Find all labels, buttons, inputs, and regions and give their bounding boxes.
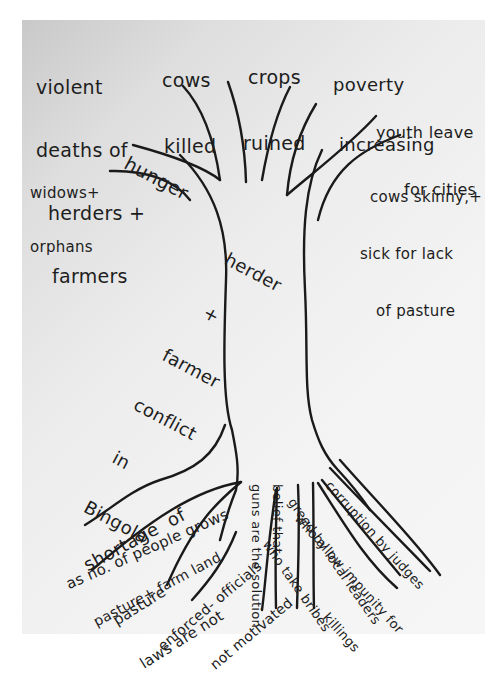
effect-line: youth leave [376,123,476,142]
effect-cows-skinny: cows skinny,+ sick for lack of pasture [370,150,482,340]
effect-line: hunger [121,154,191,203]
effect-line: cows [162,69,216,91]
effect-line: sick for lack [360,245,482,264]
core-problem-line: herder [211,244,285,295]
core-problem-line: conflict [131,395,205,446]
effect-line: orphans [30,238,100,256]
core-problem-line: + [184,294,258,345]
core-problem-line: farmer [158,344,232,395]
effect-line: violent [36,77,145,98]
cause-line: who allow impunity for [289,508,406,636]
trunk-right-edge [304,150,370,510]
effect-crops-ruined: crops ruined [243,22,306,176]
effect-line: ruined [243,132,306,154]
effect-line: cows skinny,+ [370,188,482,207]
effect-widows: widows+ orphans [30,148,100,274]
effect-line: widows+ [30,184,100,202]
effect-line: crops [243,66,306,88]
effect-line: of pasture [370,302,482,321]
